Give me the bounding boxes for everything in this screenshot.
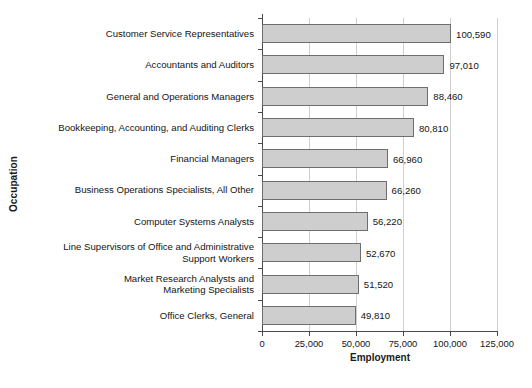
y-axis-tick: [258, 268, 262, 269]
bar: [262, 243, 361, 262]
y-axis-tick-label: Financial Managers: [22, 153, 254, 165]
y-axis-tick-label: Market Research Analysts and Marketing S…: [22, 273, 254, 296]
x-axis-tick: [403, 331, 404, 336]
bar-value-label: 49,810: [361, 310, 390, 321]
bar: [262, 87, 428, 106]
x-axis-spine: [262, 331, 498, 332]
bar-value-label: 97,010: [449, 60, 478, 71]
bar-value-label: 51,520: [364, 279, 393, 290]
bar: [262, 212, 368, 231]
bar-value-label: 66,960: [393, 154, 422, 165]
y-axis-tick-label: Line Supervisors of Office and Administr…: [22, 241, 254, 264]
bar-value-label: 66,260: [392, 185, 421, 196]
bar: [262, 181, 387, 200]
x-axis-tick: [262, 331, 263, 336]
y-axis-tick: [258, 175, 262, 176]
x-axis-tick: [450, 331, 451, 336]
x-axis-tick-label: 75,000: [389, 338, 418, 349]
bar: [262, 306, 356, 325]
x-axis-tick-label: 50,000: [342, 338, 371, 349]
bar: [262, 24, 451, 43]
y-axis-tick-label: Computer Systems Analysts: [22, 216, 254, 228]
x-axis-title-text: Employment: [350, 352, 410, 363]
y-axis-tick-label: Bookkeeping, Accounting, and Auditing Cl…: [22, 122, 254, 134]
y-axis-tick-label: General and Operations Managers: [22, 91, 254, 103]
y-axis-tick-label: Business Operations Specialists, All Oth…: [22, 184, 254, 196]
x-axis-tick-label: 100,000: [433, 338, 467, 349]
bar-value-label: 52,670: [366, 248, 395, 259]
bar-chart: Occupation Customer Service Representati…: [0, 0, 532, 388]
bar: [262, 118, 414, 137]
y-axis-title-text: Occupation: [8, 156, 19, 212]
bar-value-label: 100,590: [456, 29, 491, 40]
x-axis-tick-label: 25,000: [295, 338, 324, 349]
y-axis-tick: [258, 237, 262, 238]
y-axis-tick: [258, 49, 262, 50]
y-axis-tick-label: Office Clerks, General: [22, 310, 254, 322]
y-axis-tick: [258, 300, 262, 301]
y-axis-tick-labels: Customer Service RepresentativesAccounta…: [26, 18, 258, 331]
y-axis-tick-label: Customer Service Representatives: [22, 28, 254, 40]
plot-area: 100,59097,01088,46080,81066,96066,26056,…: [262, 18, 497, 331]
x-axis-tick: [497, 331, 498, 336]
bar-value-label: 80,810: [419, 123, 448, 134]
bar-value-label: 88,460: [433, 91, 462, 102]
y-axis-tick: [258, 81, 262, 82]
x-axis-tick: [356, 331, 357, 336]
y-axis-tick: [258, 112, 262, 113]
bar-value-label: 56,220: [373, 216, 402, 227]
bar: [262, 149, 388, 168]
x-axis-tick-label: 0: [259, 338, 264, 349]
gridline: [497, 18, 498, 331]
x-axis-tick: [309, 331, 310, 336]
y-axis-tick: [258, 206, 262, 207]
x-axis-tick-label: 125,000: [480, 338, 514, 349]
y-axis-tick-label: Accountants and Auditors: [22, 59, 254, 71]
y-axis-tick: [258, 18, 262, 19]
bar: [262, 55, 444, 74]
x-axis-title: Employment: [262, 352, 498, 363]
bar: [262, 275, 359, 294]
y-axis-tick: [258, 143, 262, 144]
